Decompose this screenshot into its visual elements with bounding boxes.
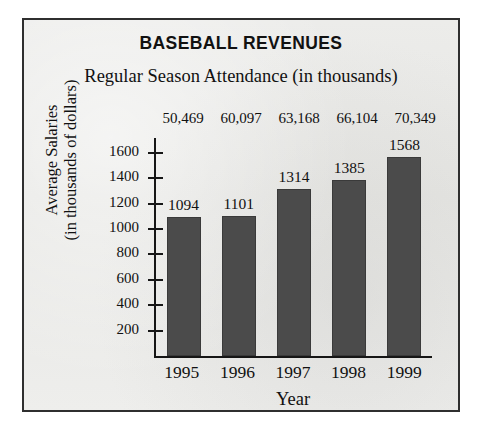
y-tick-label: 800 [95,244,139,261]
y-axis-title: Average Salaries (in thousands of dollar… [42,60,82,260]
bar[interactable] [167,217,201,356]
plot-area: 2004006008001000120014001600 10941101131… [154,138,432,358]
bar[interactable] [332,180,366,356]
x-tick-label: 1995 [154,362,210,386]
bar-value-label: 1314 [278,168,309,186]
x-axis-line [154,356,432,358]
x-axis-title: Year [154,389,432,410]
attendance-value: 70,349 [386,110,444,130]
chart-subtitle: Regular Season Attendance (in thousands) [24,66,458,87]
attendance-value: 60,097 [212,110,270,130]
y-axis-title-line-1: Average Salaries [42,60,61,260]
figure-frame: BASEBALL REVENUES Regular Season Attenda… [22,18,460,412]
bar-group: 1094 [156,140,211,356]
y-tick-label: 1600 [95,143,139,160]
bar-group: 1101 [211,140,266,356]
y-tick-label: 400 [95,295,139,312]
bar-group: 1314 [266,140,321,356]
bar-value-label: 1094 [168,196,199,214]
bar-value-label: 1101 [224,195,254,213]
y-tick-label: 600 [95,270,139,287]
y-tick-label: 1000 [95,219,139,236]
y-tick-label: 200 [95,321,139,338]
attendance-value: 66,104 [328,110,386,130]
bar-value-label: 1568 [389,136,420,154]
bar-group: 1385 [322,140,377,356]
x-axis-tick-labels: 1995 1996 1997 1998 1999 [154,362,432,386]
y-tick-label: 1200 [95,194,139,211]
attendance-value: 50,469 [154,110,212,130]
chart-page: BASEBALL REVENUES Regular Season Attenda… [0,0,495,433]
x-tick-label: 1999 [376,362,432,386]
y-tick-label: 1400 [95,168,139,185]
x-tick-label: 1998 [321,362,377,386]
x-tick-label: 1997 [265,362,321,386]
bar-value-label: 1385 [334,159,365,177]
bar[interactable] [387,157,421,356]
x-tick-label: 1996 [210,362,266,386]
bars-layer: 10941101131413851568 [156,140,432,356]
attendance-value: 63,168 [270,110,328,130]
y-axis-title-line-2: (in thousands of dollars) [61,60,80,260]
bar[interactable] [277,189,311,356]
bar[interactable] [222,216,256,356]
bar-group: 1568 [377,140,432,356]
attendance-values-row: 50,469 60,097 63,168 66,104 70,349 [154,110,444,130]
chart-title: BASEBALL REVENUES [24,33,458,54]
